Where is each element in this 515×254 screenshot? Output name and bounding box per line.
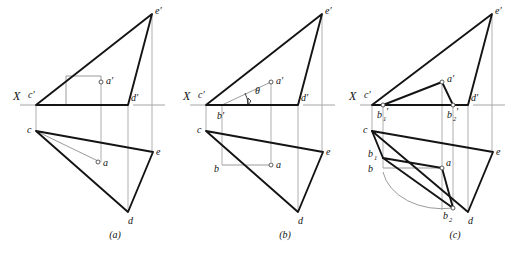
label-b2-subscript: 2 (449, 216, 453, 223)
figure-panel-b: X c′ d′ e′ a′ b′ c d e a b θ (b) (170, 0, 345, 254)
label-e-c: e (496, 146, 501, 157)
label-a-prime-a: a′ (106, 75, 114, 86)
horizontal-section-c (383, 158, 453, 208)
label-c-c: c (363, 124, 368, 135)
label-b1-base: b (368, 148, 373, 159)
figure-panel-a: X c′ d′ e′ a′ c d e a (a) (0, 0, 175, 254)
label-c-a: c (27, 124, 32, 135)
axis-label-a: X (12, 89, 21, 103)
label-b2-prime-base: b (447, 109, 452, 120)
label-b2-c: b 2 (443, 210, 453, 223)
caption-a: (a) (109, 229, 121, 241)
point-b1-prime-c (381, 103, 385, 107)
point-a-prime-b (269, 80, 273, 84)
point-a-c (440, 166, 444, 170)
label-a-a: a (103, 157, 108, 168)
label-b1-prime-base: b (377, 109, 382, 120)
label-c-prime-b: c′ (198, 89, 205, 100)
angle-arrow-theta (248, 98, 251, 105)
label-a-c: a (446, 157, 451, 168)
label-d-b: d (298, 215, 304, 226)
label-theta-b: θ (255, 85, 260, 96)
label-b1-c: b 1 (368, 148, 377, 161)
frontal-section-c (383, 82, 453, 105)
label-b-b: b (214, 163, 219, 174)
label-e-b: e (326, 146, 331, 157)
label-d-prime-a: d′ (131, 92, 139, 103)
horizontal-triangle-a (36, 131, 153, 212)
axis-label-c: X (348, 89, 357, 103)
figure-panel-c: X c′ d′ e′ a′ b 1 ′ b 2 ′ c d e a b 1 b … (340, 0, 515, 254)
point-a-prime-a (99, 80, 103, 84)
point-b2-prime-c (451, 103, 455, 107)
label-a-prime-c: a′ (447, 73, 455, 84)
horizontal-triangle-c (372, 131, 493, 212)
label-c-prime-c: c′ (364, 89, 371, 100)
trace-c-to-a (36, 131, 98, 161)
label-d-c: d (468, 215, 474, 226)
label-d-prime-c: d′ (471, 92, 479, 103)
label-b-c: b (368, 163, 373, 174)
label-d-prime-b: d′ (301, 92, 309, 103)
label-c-b: c (197, 124, 202, 135)
figure-sheet: X c′ d′ e′ a′ c d e a (a) X c′ d′ (0, 0, 515, 254)
label-a-prime-b: a′ (276, 75, 284, 86)
point-a-b (269, 163, 273, 167)
point-a-a (96, 160, 100, 164)
label-a-b: a (276, 159, 281, 170)
point-a-prime-c (440, 80, 444, 84)
label-e-prime-a: e′ (155, 5, 162, 16)
label-c-prime-a: c′ (28, 89, 35, 100)
point-b2-c (451, 206, 455, 210)
horizontal-triangle-b (206, 131, 323, 212)
label-b1-subscript: 1 (374, 154, 377, 161)
label-b1-prime-mark: ′ (386, 106, 389, 117)
label-b2-prime-mark: ′ (456, 106, 459, 117)
label-b2-base: b (443, 210, 448, 221)
caption-b: (b) (279, 229, 291, 241)
label-e-a: e (156, 146, 161, 157)
trace-bprime-to-aprime (222, 82, 271, 105)
label-e-prime-b: e′ (325, 5, 332, 16)
label-b-prime-b: b′ (217, 110, 225, 121)
label-e-prime-c: e′ (495, 5, 502, 16)
caption-c: (c) (449, 229, 461, 241)
label-d-a: d (128, 215, 134, 226)
axis-label-b: X (182, 89, 191, 103)
